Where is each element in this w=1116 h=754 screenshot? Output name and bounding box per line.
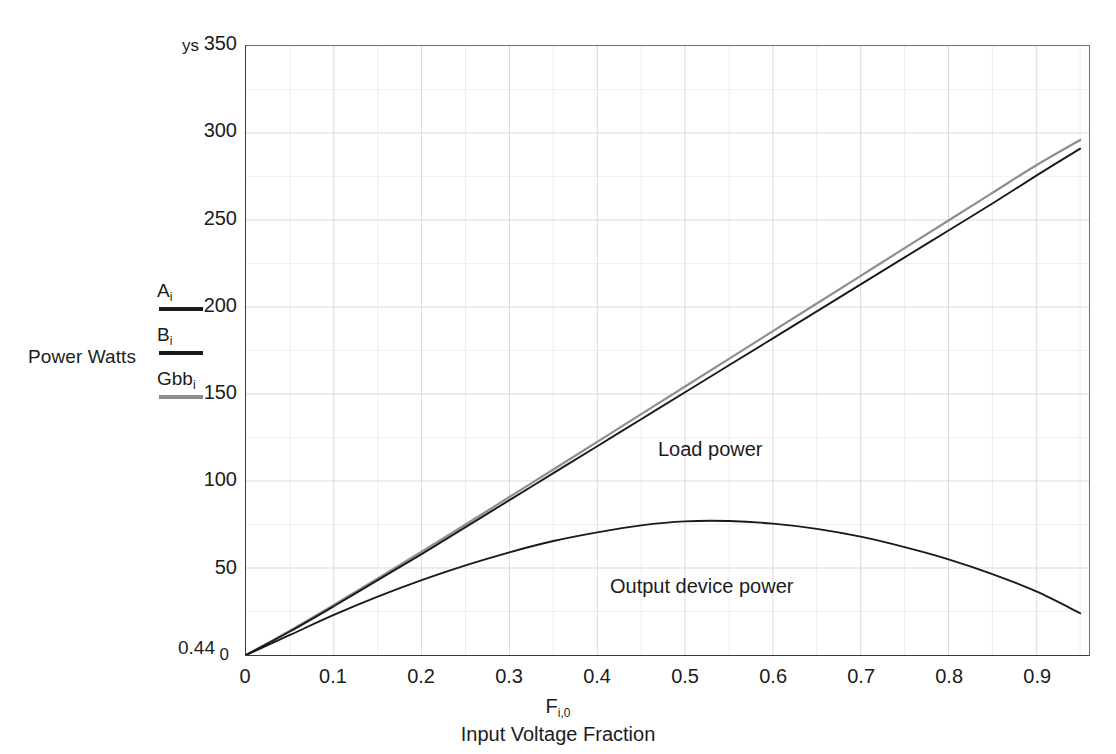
plot-area (245, 45, 1090, 656)
legend-entry-b: Bi (157, 325, 227, 369)
x-tick-label: 0 (215, 665, 275, 688)
y-tick-label: 150 (167, 381, 237, 404)
legend-label-b: Bi (157, 325, 227, 347)
y-tick-label: 100 (167, 468, 237, 491)
x-tick-label: 0.2 (391, 665, 451, 688)
x-tick-label: 0.1 (303, 665, 363, 688)
y-tick-label: 0 (167, 645, 229, 665)
x-axis-title: Fi,0 Input Voltage Fraction (0, 694, 1116, 747)
power-chart-figure: ys Power Watts 0.44 Ai Bi Gbbi 050100150… (0, 0, 1116, 754)
y-tick-label: 250 (167, 207, 237, 230)
x-tick-label: 0.8 (919, 665, 979, 688)
x-tick-label: 0.3 (479, 665, 539, 688)
y-axis-title: Power Watts (28, 346, 136, 368)
x-tick-label: 0.7 (831, 665, 891, 688)
y-tick-label: 200 (167, 294, 237, 317)
x-axis-caption: Input Voltage Fraction (0, 722, 1116, 747)
y-tick-label: 300 (167, 119, 237, 142)
legend-swatch-b (159, 351, 203, 355)
y-tick-label: 50 (167, 556, 237, 579)
x-tick-label: 0.6 (743, 665, 803, 688)
y-tick-label: 350 (167, 32, 237, 55)
annotation-output-device-power: Output device power (610, 575, 793, 598)
x-axis-symbol: Fi,0 (0, 694, 1116, 722)
x-tick-label: 0.5 (655, 665, 715, 688)
x-tick-label: 0.9 (1007, 665, 1067, 688)
x-tick-label: 0.4 (567, 665, 627, 688)
data-curves (246, 46, 1089, 655)
annotation-load-power: Load power (658, 438, 763, 461)
